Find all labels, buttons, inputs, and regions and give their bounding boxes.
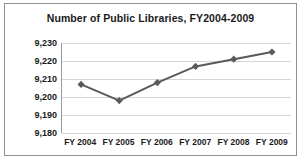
chart-title: Number of Public Libraries, FY2004-2009 (5, 12, 296, 24)
y-axis-tick-label: 9,230 (7, 38, 57, 48)
x-axis-tick-label: FY 2007 (179, 137, 211, 147)
series-path (81, 52, 272, 101)
data-point-marker (192, 63, 199, 70)
y-axis-tick-label: 9,210 (7, 74, 57, 84)
data-point-marker (116, 97, 123, 104)
series-line-libraries (62, 43, 291, 133)
y-axis-tick-label: 9,220 (7, 56, 57, 66)
data-point-marker (230, 56, 237, 63)
plot-area (61, 43, 291, 133)
data-point-marker (154, 79, 161, 86)
data-point-marker (268, 48, 275, 55)
y-axis: 9,1809,1909,2009,2109,2209,230 (5, 43, 57, 133)
x-axis-tick-label: FY 2006 (141, 137, 173, 147)
y-axis-tick-label: 9,190 (7, 110, 57, 120)
data-point-marker (77, 81, 84, 88)
chart-container: Number of Public Libraries, FY2004-2009 … (4, 3, 297, 156)
x-axis: FY 2004FY 2005FY 2006FY 2007FY 2008FY 20… (5, 133, 296, 155)
x-axis-tick-label: FY 2008 (218, 137, 250, 147)
x-axis-tick-label: FY 2005 (103, 137, 135, 147)
x-axis-tick-label: FY 2009 (256, 137, 288, 147)
y-axis-tick-label: 9,200 (7, 92, 57, 102)
x-axis-tick-label: FY 2004 (64, 137, 96, 147)
